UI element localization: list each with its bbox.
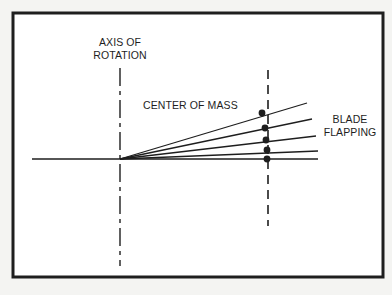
axis-of-rotation-label: AXIS OF ROTATION: [77, 36, 163, 62]
axis-of-rotation-label-line-2: ROTATION: [77, 49, 163, 62]
blade-flapping-label: BLADE FLAPPING: [318, 113, 382, 139]
center-of-mass-dot-4: [264, 147, 271, 154]
center-of-mass-dot-5: [264, 156, 271, 163]
axis-of-rotation-label-line-1: AXIS OF: [77, 36, 163, 49]
center-of-mass-label: CENTER OF MASS: [143, 99, 238, 112]
blade-flapping-diagram: [0, 0, 392, 295]
diagram-frame: [13, 13, 383, 277]
center-of-mass-dot-2: [262, 125, 269, 132]
center-of-mass-dot-3: [263, 137, 270, 144]
blade-flapping-label-line-2: FLAPPING: [318, 126, 382, 139]
center-of-mass-dot-1: [259, 110, 266, 117]
blade-flapping-label-line-1: BLADE: [318, 113, 382, 126]
